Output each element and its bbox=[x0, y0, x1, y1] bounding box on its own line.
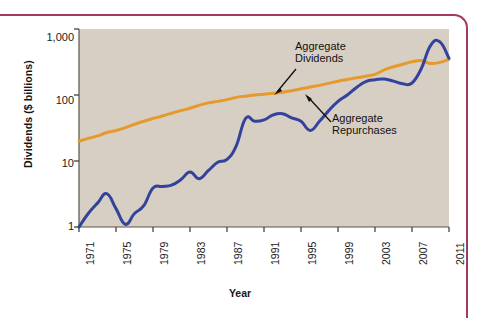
figure-container: Dividends ($ billions) Year 1,000 100 10… bbox=[0, 0, 491, 318]
y-tick-marks bbox=[74, 29, 79, 227]
x-tick-marks bbox=[79, 227, 449, 232]
annotation-aggregate-dividends: Aggregate Dividends bbox=[295, 40, 346, 64]
chart: Dividends ($ billions) Year 1,000 100 10… bbox=[0, 0, 468, 318]
plot-canvas bbox=[0, 0, 468, 318]
annotation-aggregate-repurchases: Aggregate Repurchases bbox=[332, 112, 397, 136]
